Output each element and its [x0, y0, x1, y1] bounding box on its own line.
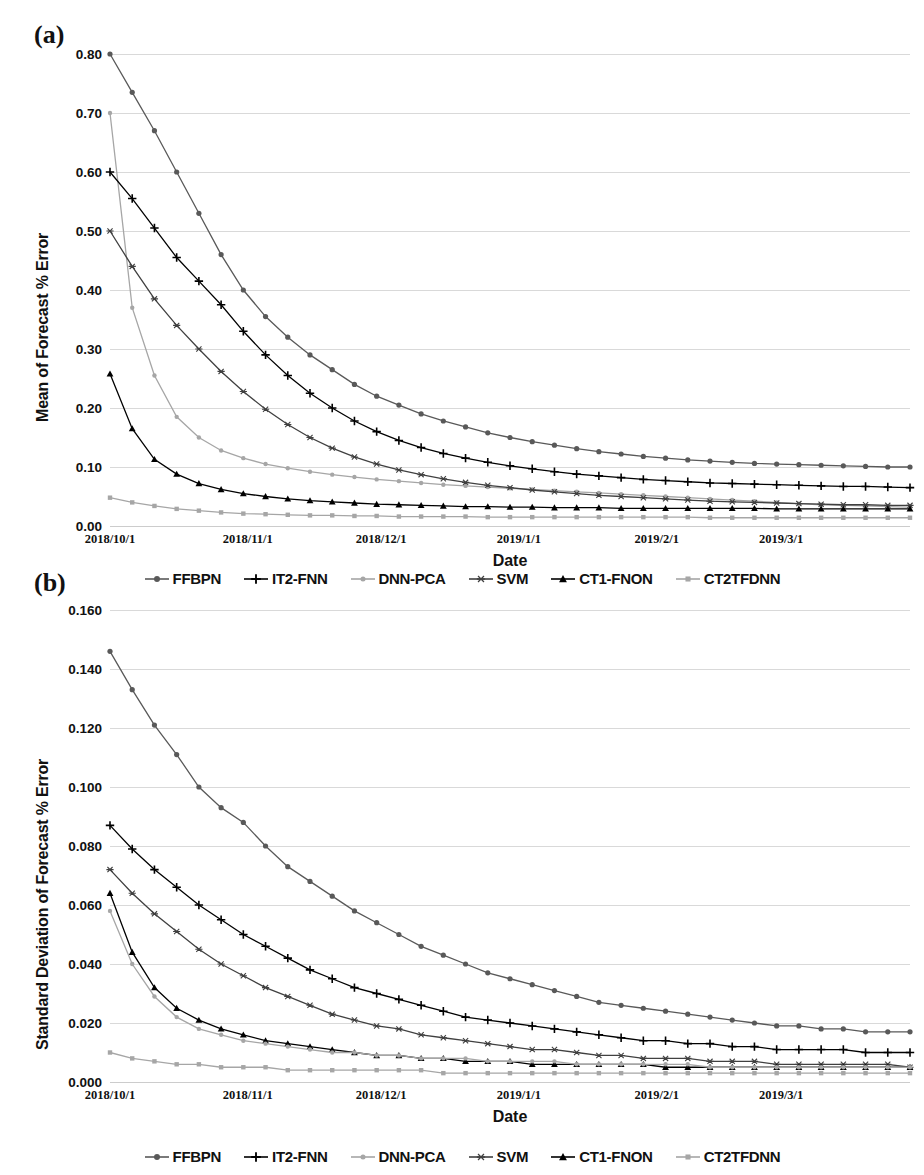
asterisk-marker — [173, 323, 180, 328]
square-marker — [663, 1071, 667, 1075]
x-axis-tick-label: 2018/12/1 — [356, 532, 407, 547]
legend-label: IT2-FNN — [272, 1148, 327, 1165]
plus-marker — [684, 478, 692, 486]
square-marker — [597, 1071, 601, 1075]
dot-marker — [419, 481, 423, 485]
dot-marker — [174, 415, 178, 419]
diamond-marker — [263, 843, 268, 848]
dot-marker — [619, 1062, 623, 1066]
diamond-marker — [819, 1026, 824, 1031]
plus-marker — [572, 1028, 580, 1036]
y-axis-tick-label: 0.80 — [76, 47, 110, 62]
diamond-marker — [152, 722, 157, 727]
asterisk-marker — [218, 369, 225, 374]
diamond-marker — [441, 418, 446, 423]
dot-marker — [241, 1039, 245, 1043]
legend-item-it2-fnn[interactable]: IT2-FNN — [243, 1148, 327, 1165]
dot-marker — [574, 1062, 578, 1066]
series-it2-fnn — [106, 821, 914, 1057]
legend-item-ffbpn[interactable]: FFBPN — [144, 1148, 222, 1165]
series-dnn-pca — [108, 111, 912, 510]
legend-marker-dot-marker — [350, 1150, 376, 1164]
series-line — [110, 651, 910, 1032]
dot-marker — [197, 435, 201, 439]
dot-marker — [130, 306, 134, 310]
square-marker — [308, 1068, 312, 1072]
square-marker — [174, 507, 178, 511]
asterisk-marker — [173, 929, 180, 934]
asterisk-marker — [306, 435, 313, 440]
legend-item-ct1-fnon[interactable]: CT1-FNON — [550, 1148, 652, 1165]
square-marker — [441, 514, 445, 518]
panel-a: (a) Mean of Forecast % Error Date 0.000.… — [0, 22, 924, 578]
diamond-marker — [619, 451, 624, 456]
square-marker — [463, 514, 467, 518]
dot-marker — [374, 1053, 378, 1057]
dot-marker — [708, 1065, 712, 1069]
plus-marker — [772, 481, 780, 489]
asterisk-marker — [240, 389, 247, 394]
diamond-marker — [663, 1009, 668, 1014]
square-marker — [108, 1050, 112, 1054]
square-marker — [797, 516, 801, 520]
dot-marker — [397, 1053, 401, 1057]
dot-marker — [463, 1056, 467, 1060]
diamond-marker — [774, 1023, 779, 1028]
dot-marker — [774, 1065, 778, 1069]
square-marker — [286, 513, 290, 517]
square-marker — [819, 516, 823, 520]
plus-marker — [417, 443, 425, 451]
diamond-marker — [463, 424, 468, 429]
legend-label: CT1-FNON — [579, 1148, 652, 1165]
plus-marker — [661, 1037, 669, 1045]
diamond-marker — [707, 1015, 712, 1020]
x-axis-tick-label: 2018/11/1 — [223, 1088, 273, 1103]
diamond-marker — [841, 1026, 846, 1031]
asterisk-marker — [240, 973, 247, 978]
diamond-marker — [596, 1000, 601, 1005]
plus-marker — [595, 472, 603, 480]
dot-marker — [352, 475, 356, 479]
legend-item-dnn-pca[interactable]: DNN-PCA — [350, 1148, 446, 1165]
diamond-marker — [863, 464, 868, 469]
y-axis-tick-label: 0.020 — [68, 1016, 110, 1031]
plus-marker — [506, 1019, 514, 1027]
asterisk-marker — [418, 1032, 425, 1037]
diamond-marker — [574, 994, 579, 999]
panel-a-plot-area: Date 0.000.100.200.300.400.500.600.700.8… — [110, 54, 910, 526]
asterisk-marker — [151, 296, 158, 301]
square-marker — [908, 516, 912, 520]
square-marker — [508, 1071, 512, 1075]
diamond-marker — [463, 961, 468, 966]
legend-label: DNN-PCA — [379, 1148, 446, 1165]
x-axis-tick-label: 2019/2/1 — [634, 1088, 678, 1103]
legend-item-svm[interactable]: SVM — [468, 1148, 529, 1165]
square-marker — [708, 516, 712, 520]
diamond-marker — [552, 443, 557, 448]
dot-marker — [152, 994, 156, 998]
diamond-marker — [241, 287, 246, 292]
panel-a-ylabel: Mean of Forecast % Error — [34, 233, 52, 422]
square-marker — [641, 1071, 645, 1075]
dot-marker — [197, 1027, 201, 1031]
diamond-marker — [107, 649, 112, 654]
plus-marker — [750, 480, 758, 488]
legend-marker-asterisk-marker — [468, 1150, 494, 1164]
plus-marker — [239, 930, 247, 938]
legend-item-ct2tfdnn[interactable]: CT2TFDNN — [675, 1148, 781, 1165]
plus-marker — [395, 436, 403, 444]
diamond-marker — [796, 1023, 801, 1028]
plus-marker — [639, 1037, 647, 1045]
x-axis-tick-label: 2019/3/1 — [759, 532, 803, 547]
x-axis-tick-label: 2018/11/1 — [223, 532, 273, 547]
plus-marker — [550, 1025, 558, 1033]
plus-marker — [839, 482, 847, 490]
square-marker — [241, 1065, 245, 1069]
diamond-marker — [152, 128, 157, 133]
square-marker — [663, 515, 667, 519]
asterisk-marker — [484, 1041, 491, 1046]
dot-marker — [686, 1062, 690, 1066]
asterisk-marker — [751, 1059, 758, 1064]
y-axis-tick-label: 0.140 — [68, 662, 110, 677]
diamond-marker — [641, 1006, 646, 1011]
